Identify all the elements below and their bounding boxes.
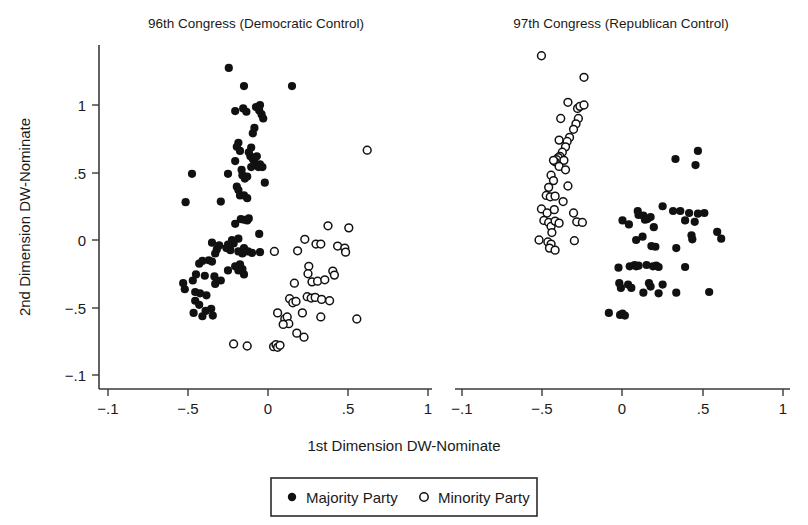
data-point-majority (236, 147, 244, 155)
data-point-minority (321, 276, 329, 284)
data-point-majority (655, 289, 663, 297)
data-point-majority (231, 157, 239, 165)
data-point-majority (258, 163, 266, 171)
dw-nominate-scatter-figure: 96th Congress (Democratic Control) 1 .5 … (0, 0, 808, 525)
x-tick-label: 1 (779, 400, 787, 417)
data-point-majority (195, 301, 203, 309)
data-point-majority (217, 276, 225, 284)
data-point-minority (550, 206, 558, 214)
data-point-minority (363, 146, 371, 154)
data-point-majority (201, 272, 209, 280)
x-tick-label: −.5 (531, 400, 552, 417)
data-point-majority (632, 236, 640, 244)
data-point-minority (230, 340, 238, 348)
open-circle-icon (420, 493, 428, 501)
y-tick-label: 1 (78, 97, 86, 114)
data-point-majority (256, 101, 264, 109)
data-point-majority (243, 194, 251, 202)
data-point-minority (331, 271, 339, 279)
data-point-minority (570, 209, 578, 217)
data-point-majority (255, 230, 263, 238)
x-axis-title: 1st Dimension DW-Nominate (307, 437, 500, 454)
data-point-majority (231, 220, 239, 228)
data-point-majority (288, 82, 296, 90)
filled-circle-icon (288, 493, 296, 501)
data-point-minority (305, 262, 313, 270)
data-point-minority (559, 198, 567, 206)
data-point-majority (249, 129, 257, 137)
data-point-minority (279, 320, 287, 328)
data-point-minority (293, 329, 301, 337)
data-point-majority (691, 161, 699, 169)
data-point-majority (681, 263, 689, 271)
data-point-majority (617, 284, 625, 292)
data-point-minority (580, 73, 588, 81)
data-point-majority (224, 170, 232, 178)
data-point-majority (225, 64, 233, 72)
data-point-majority (669, 207, 677, 215)
data-point-minority (271, 248, 279, 256)
y-tick-label: .5 (73, 165, 86, 182)
data-point-majority (248, 249, 256, 257)
data-point-minority (345, 224, 353, 232)
data-point-majority (211, 249, 219, 257)
legend-label-majority: Majority Party (306, 489, 398, 506)
y-axis-title: 2nd Dimension DW-Nominate (16, 118, 33, 316)
data-point-minority (317, 313, 325, 321)
data-point-minority (570, 125, 578, 133)
data-point-minority (300, 333, 308, 341)
data-point-majority (691, 218, 699, 226)
data-point-minority (292, 298, 300, 306)
data-point-majority (639, 289, 647, 297)
y-tick-label: −.5 (65, 300, 86, 317)
data-point-minority (304, 270, 312, 278)
data-point-majority (621, 312, 629, 320)
data-point-majority (717, 235, 725, 243)
data-point-majority (215, 241, 223, 249)
x-tick-label: 1 (424, 400, 432, 417)
data-point-majority (192, 270, 200, 278)
data-point-minority (243, 342, 251, 350)
data-point-minority (564, 182, 572, 190)
data-point-minority (299, 309, 307, 317)
data-point-majority (224, 266, 232, 274)
data-point-majority (694, 147, 702, 155)
data-point-minority (317, 240, 325, 248)
data-point-majority (240, 82, 248, 90)
x-tick-label: .5 (342, 400, 355, 417)
data-point-majority (256, 248, 264, 256)
x-tick-label: 0 (264, 400, 272, 417)
data-point-majority (182, 198, 190, 206)
data-point-majority (226, 246, 234, 254)
data-point-minority (551, 192, 559, 200)
data-point-majority (245, 214, 253, 222)
data-point-majority (259, 114, 267, 122)
data-point-majority (676, 207, 684, 215)
data-point-majority (188, 170, 196, 178)
data-point-minority (324, 222, 332, 230)
data-point-minority (562, 166, 570, 174)
data-point-minority (353, 315, 361, 323)
data-point-majority (646, 282, 654, 290)
data-point-minority (551, 246, 559, 254)
data-point-majority (217, 197, 225, 205)
data-point-minority (318, 296, 326, 304)
data-point-majority (191, 288, 199, 296)
data-point-majority (688, 235, 696, 243)
y-tick-label: −.1 (65, 367, 86, 384)
data-point-minority (557, 115, 565, 123)
data-point-majority (632, 262, 640, 270)
data-point-majority (190, 309, 198, 317)
data-point-majority (605, 309, 613, 317)
data-point-majority (671, 155, 679, 163)
data-point-majority (253, 152, 261, 160)
data-point-majority (685, 209, 693, 217)
data-point-majority (705, 288, 713, 296)
data-point-majority (655, 263, 663, 271)
data-point-majority (651, 243, 659, 251)
data-point-majority (672, 244, 680, 252)
data-point-minority (342, 248, 350, 256)
data-point-majority (202, 291, 210, 299)
data-point-majority (627, 284, 635, 292)
x-tick-label: −.5 (177, 400, 198, 417)
